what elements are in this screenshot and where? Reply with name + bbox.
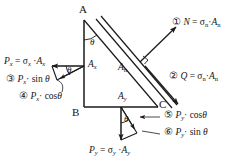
px-resultant-label: Px = σx ·Ax — [4, 57, 45, 67]
px-sin-angle: θ — [45, 74, 50, 84]
inclined-plane-face — [96, 16, 177, 108]
px-cos-function: cos — [45, 91, 58, 101]
force-number-3: ③ — [6, 74, 15, 84]
area-label-an: An — [118, 63, 127, 73]
figure-canvas: A B C θ θ θ Ax Ay An ① N = σn·An ② Q = σ… — [0, 0, 239, 166]
shear-area-subscript: n — [215, 75, 218, 82]
force-label-normal: ① N = σn·An — [172, 18, 220, 28]
force-label-px-sin: ③ Px· sin θ — [6, 75, 50, 85]
force-number-4: ④ — [19, 91, 28, 101]
py-cos-angle: θ — [202, 110, 207, 120]
force-number-2: ② — [169, 71, 178, 81]
px-area-subscript: x — [42, 60, 45, 67]
vertex-label-b: B — [72, 107, 79, 118]
area-label-ay: Ay — [118, 92, 127, 102]
py-sin-function: sin — [190, 127, 201, 137]
apex-theta-label: θ — [90, 38, 94, 47]
area-an-subscript: n — [124, 66, 127, 73]
px-sin-component-arrow — [60, 66, 84, 79]
force-label-shear: ② Q = σn·An — [169, 72, 218, 82]
bottom-theta-label: θ — [124, 115, 128, 124]
area-ay-subscript: y — [124, 95, 127, 102]
force-number-5: ⑤ — [164, 110, 173, 120]
px-cos-angle: θ — [57, 91, 62, 101]
py-sin-angle: θ — [203, 127, 208, 137]
force-number-6: ⑥ — [164, 127, 173, 137]
vertex-label-a: A — [79, 4, 87, 15]
force-label-px-cos: ④ Px· cosθ — [19, 92, 62, 102]
area-label-ax: Ax — [88, 60, 97, 70]
force-label-py-cos: ⑤ Py· cosθ — [164, 111, 207, 121]
py-area-subscript: y — [127, 149, 130, 156]
px-sin-function: sin — [32, 74, 43, 84]
normal-area-subscript: n — [217, 21, 220, 28]
py-cos-function: cos — [190, 110, 203, 120]
py-resultant-label: Py = σy ·Ay — [89, 146, 130, 156]
normal-force-arrow — [140, 27, 176, 62]
py-sin-leader-line — [142, 131, 160, 134]
left-theta-label: θ — [67, 66, 71, 75]
area-ax-subscript: x — [94, 63, 97, 70]
vertex-label-c: C — [159, 99, 166, 110]
force-number-1: ① — [172, 17, 181, 27]
force-label-py-sin: ⑥ Py· sin θ — [164, 128, 208, 138]
